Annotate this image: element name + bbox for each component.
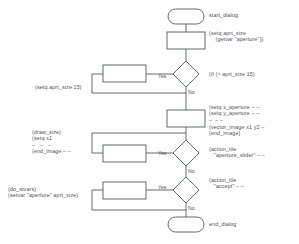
- annotation-do-stvars: (do_stvars) (setvar "aperture" aprt_size…: [8, 186, 78, 199]
- node-setq-xy-aperture: [167, 110, 205, 127]
- branch-label-dec2-yes: Yes: [158, 150, 166, 156]
- branch-label-dec3-no: No: [188, 205, 195, 211]
- node-do-stvars: [103, 182, 146, 199]
- node-decision-if-gt-15: [173, 61, 199, 87]
- branch-label-dec3-yes: Yes: [158, 184, 166, 190]
- annotation-vector-image: (vector_image x1 y2 – (end_image): [209, 124, 264, 137]
- annotation-setq-aprt-size: (setq aprt_size (getvar "aperture")): [209, 30, 263, 43]
- annotation-setq-aprt-size-15: (setq aprt_size 15): [35, 84, 82, 90]
- annotation-action-tile-accept: (action_tile "accept" – –: [209, 177, 244, 190]
- node-decision-accept: [173, 177, 199, 203]
- node-setq-aprt-size-15: [103, 65, 146, 82]
- branch-label-dec1-no: No: [188, 89, 195, 95]
- annotation-setq-xy-aperture: (setq x_aperture – – (setq y_aperture – …: [209, 104, 259, 123]
- branch-label-dec1-yes: Yes: [158, 73, 166, 79]
- node-draw-size: [103, 145, 146, 162]
- branch-label-dec2-no: No: [188, 168, 195, 174]
- flowchart-canvas: Yes No Yes No Yes No start_dialog (setq …: [0, 0, 299, 244]
- annotation-if-gt-aprt-size: (if (> aprt_size 15): [209, 71, 255, 77]
- node-end-dialog: [168, 217, 204, 232]
- node-decision-aperture-slider: [173, 140, 199, 166]
- annotation-end-dialog: end_dialog: [209, 221, 236, 227]
- annotation-start-dialog: start_dialog: [209, 12, 238, 18]
- node-start-dialog: [168, 9, 204, 24]
- node-setq-aprt-size: [167, 32, 205, 49]
- annotation-action-tile-slider: (action_tile "aperture_slider" – –: [209, 146, 265, 159]
- annotation-draw-size: (draw_size) (setq x1 – – – (end_image – …: [32, 129, 71, 155]
